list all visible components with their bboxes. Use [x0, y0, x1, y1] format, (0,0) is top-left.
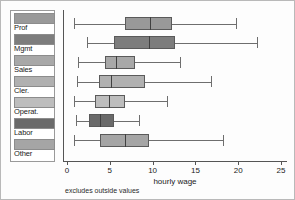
legend-label: Prof [14, 22, 27, 33]
x-axis-tick [153, 162, 154, 165]
upper-whisker [149, 140, 223, 141]
lower-whisker-cap [74, 96, 75, 107]
boxplot-plot-area: 0510152025 [63, 10, 287, 162]
median-line [149, 36, 150, 49]
upper-whisker [145, 82, 211, 83]
box-iqr-rect [114, 36, 175, 49]
boxplot-box [63, 14, 287, 34]
x-axis-tick [195, 162, 196, 165]
upper-whisker [114, 121, 139, 122]
upper-whisker-cap [167, 96, 168, 107]
legend-label: Mgmt [14, 43, 32, 54]
legend-label: Cler. [14, 85, 29, 96]
median-line [116, 56, 117, 69]
legend-item[interactable]: Labor [13, 118, 52, 139]
lower-whisker-cap [76, 115, 77, 126]
median-line [111, 75, 112, 88]
boxplot-box [63, 111, 287, 131]
lower-whisker [74, 101, 95, 102]
upper-whisker-cap [139, 115, 140, 126]
upper-whisker [172, 24, 235, 25]
boxplot-box [63, 72, 287, 92]
legend-item[interactable]: Cler. [13, 76, 52, 97]
chart-footnote: excludes outside values [65, 187, 139, 194]
lower-whisker [77, 82, 98, 83]
upper-whisker-cap [236, 18, 237, 29]
box-iqr-rect [105, 56, 135, 69]
x-axis-tick [238, 162, 239, 165]
lower-whisker-cap [78, 57, 79, 68]
box-iqr-rect [125, 17, 172, 30]
box-iqr-rect [89, 114, 114, 127]
boxplot-box [63, 33, 287, 53]
lower-whisker [76, 121, 89, 122]
lower-whisker-cap [77, 76, 78, 87]
x-axis-tick-label: 0 [57, 166, 77, 175]
legend-item[interactable]: Prof [13, 13, 52, 34]
chart-canvas: ProfMgmtSalesCler.Operat.LaborOther 0510… [0, 0, 295, 200]
upper-whisker-cap [223, 135, 224, 146]
legend-item[interactable]: Operat. [13, 97, 52, 118]
x-axis-tick [67, 162, 68, 165]
box-iqr-rect [99, 75, 145, 88]
upper-whisker [125, 101, 167, 102]
box-iqr-rect [95, 95, 125, 108]
legend-item[interactable]: Mgmt [13, 34, 52, 55]
x-axis-label: hourly wage [63, 177, 287, 186]
legend-item[interactable]: Sales [13, 55, 52, 76]
upper-whisker [175, 43, 257, 44]
lower-whisker [74, 24, 125, 25]
upper-whisker-cap [211, 76, 212, 87]
median-line [150, 17, 151, 30]
x-axis-tick-label: 25 [271, 166, 291, 175]
upper-whisker [135, 62, 180, 63]
legend-label: Sales [14, 64, 32, 75]
boxplot-box [63, 53, 287, 73]
upper-whisker-cap [180, 57, 181, 68]
lower-whisker [78, 62, 105, 63]
boxplot-box [63, 131, 287, 151]
lower-whisker-cap [87, 37, 88, 48]
median-line [100, 114, 101, 127]
median-line [125, 134, 126, 147]
median-line [109, 95, 110, 108]
legend-label: Operat. [14, 106, 38, 117]
chart-legend: ProfMgmtSalesCler.Operat.LaborOther [10, 10, 55, 162]
legend-item[interactable]: Other [13, 139, 52, 160]
upper-whisker-cap [257, 37, 258, 48]
x-axis-tick-label: 15 [185, 166, 205, 175]
lower-whisker [74, 140, 101, 141]
x-axis-tick-label: 5 [100, 166, 120, 175]
lower-whisker-cap [74, 18, 75, 29]
x-axis-tick [281, 162, 282, 165]
lower-whisker-cap [74, 135, 75, 146]
x-axis-tick-label: 10 [143, 166, 163, 175]
lower-whisker [87, 43, 114, 44]
boxplot-box [63, 92, 287, 112]
x-axis-tick-label: 20 [228, 166, 248, 175]
legend-label: Labor [14, 127, 33, 138]
legend-label: Other [14, 148, 32, 159]
x-axis-tick [110, 162, 111, 165]
